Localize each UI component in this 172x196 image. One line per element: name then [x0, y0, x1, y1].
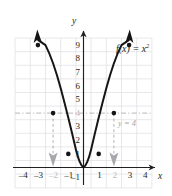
- x-tick-4: 4: [137, 171, 154, 180]
- function-label-text: f(x) = x: [116, 43, 146, 54]
- graph-canvas: [0, 0, 172, 196]
- point-neg2-4: [51, 111, 56, 116]
- y-tick-4: 4: [64, 109, 80, 118]
- y-equals-4-label: y = 4: [118, 119, 136, 128]
- point-neg3-9: [36, 43, 41, 48]
- function-label-exponent: 2: [146, 42, 149, 49]
- drop-arrow-left: [49, 113, 58, 166]
- y-axis-label: y: [72, 17, 76, 27]
- y-tick-7: 7: [64, 68, 80, 77]
- y-tick-2: 2: [64, 136, 80, 145]
- y-tick-6: 6: [64, 82, 80, 91]
- x-tick-neg1: –1: [60, 171, 77, 180]
- point-1-1: [96, 152, 101, 157]
- y-tick-1: 1: [64, 150, 80, 159]
- function-label: f(x) = x2: [116, 43, 149, 54]
- y-tick-9: 9: [64, 41, 80, 50]
- parabola-graph-figure: y x f(x) = x2 y = 4 9 8 7 6 5 4 3 2 1 –1…: [0, 0, 172, 196]
- y-tick-5: 5: [64, 95, 80, 104]
- y-tick-3: 3: [64, 122, 80, 131]
- y-tick-8: 8: [64, 54, 80, 63]
- x-axis-label: x: [158, 172, 162, 182]
- point-2-4: [112, 111, 117, 116]
